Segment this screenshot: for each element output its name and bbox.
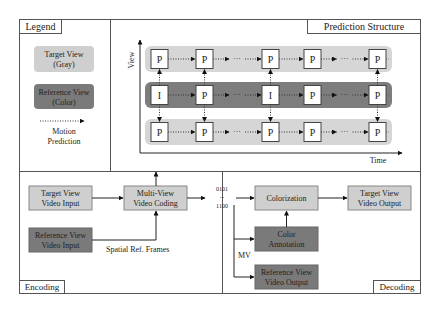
prediction-row-target: ······PPPPP [145, 46, 392, 72]
prediction-row-target: ······PPPPP [145, 119, 392, 145]
reference-input-line2: Video Input [42, 241, 81, 250]
target-output-line1: Target View [360, 189, 399, 198]
frame-label: P [375, 127, 381, 138]
frame-label: P [268, 127, 274, 138]
legend-reference-line2: (Color) [52, 98, 76, 107]
legend-motion-line2: Prediction [48, 137, 81, 146]
frame-label: I [269, 90, 272, 101]
legend-reference-line1: Reference View [38, 88, 89, 97]
target-input-line2: Video Input [42, 199, 81, 208]
bitstream-line1: 0101 [216, 186, 228, 192]
decoding-title: Decoding [380, 282, 415, 292]
reference-output-line2: Video Output [265, 278, 309, 287]
multiview-coding-line2: Video Coding [133, 199, 178, 208]
frame-label: P [310, 127, 316, 138]
legend-target-line1: Target View [45, 50, 84, 59]
ellipsis: ··· [341, 127, 349, 136]
decoding-panel: Colorization Target View Video Output Co… [234, 186, 421, 294]
frame-label: P [268, 54, 274, 65]
ellipsis: ··· [341, 54, 349, 63]
prediction-structure-panel: Prediction Structure View Time ······PPP… [127, 20, 421, 166]
ellipsis: ··· [341, 90, 349, 99]
target-input-line1: Target View [41, 189, 80, 198]
bitstream: 0101 ... 1100 [216, 186, 228, 209]
time-axis-label: Time [370, 156, 387, 165]
diagram-canvas: Legend Target View (Gray) Reference View… [0, 0, 437, 310]
encoding-title: Encoding [25, 282, 60, 292]
prediction-rows: ······PPPPP······IPIPP······PPPPP [145, 46, 392, 145]
frame-label: P [157, 54, 163, 65]
colorization-label: Colorization [267, 194, 307, 203]
ellipsis: ··· [233, 90, 241, 99]
prediction-row-reference: ······IPIPP [145, 82, 392, 108]
frame-label: P [202, 127, 208, 138]
ellipsis: ··· [233, 127, 241, 136]
view-axis-label: View [127, 51, 136, 68]
frame-label: P [375, 90, 381, 101]
spatial-ref-label: Spatial Ref. Frames [106, 245, 169, 254]
color-annotation-line1: Color [277, 230, 296, 239]
prediction-title: Prediction Structure [324, 21, 405, 32]
legend-title: Legend [26, 21, 56, 32]
frame-label: I [158, 90, 161, 101]
reference-input-line1: Reference View [35, 231, 86, 240]
frame-label: P [202, 54, 208, 65]
legend-target-line2: (Gray) [53, 60, 75, 69]
bitstream-line2: ... [220, 193, 225, 199]
encoding-panel: Target View Video Input Multi-View Video… [20, 172, 206, 294]
reference-to-coding-arrow [92, 211, 156, 240]
color-annotation-line2: Annotation [269, 240, 305, 249]
legend-motion-line1: Motion [52, 127, 76, 136]
bitstream-line3: 1100 [216, 203, 228, 209]
frame-label: P [202, 90, 208, 101]
target-output-line2: Video Output [358, 199, 402, 208]
multiview-coding-line1: Multi-View [137, 189, 175, 198]
frame-label: P [375, 54, 381, 65]
legend-panel: Legend Target View (Gray) Reference View… [20, 20, 95, 147]
frame-label: P [157, 127, 163, 138]
mv-label: MV [238, 251, 251, 260]
reference-output-line1: Reference View [261, 268, 312, 277]
frame-label: P [310, 54, 316, 65]
ellipsis: ··· [233, 54, 241, 63]
frame-label: P [310, 90, 316, 101]
